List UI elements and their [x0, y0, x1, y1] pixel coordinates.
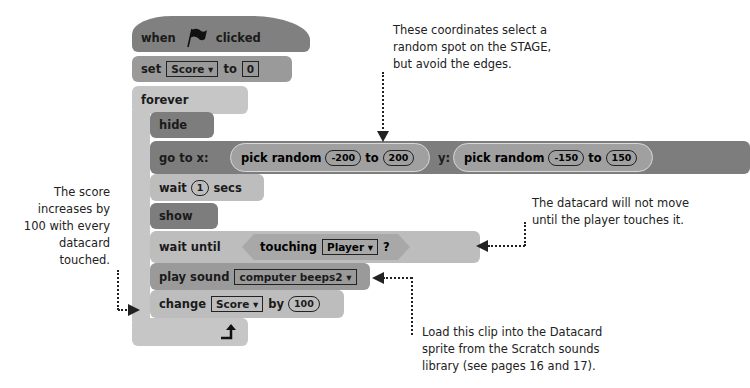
by-label: by: [268, 297, 284, 311]
annotation-datacard: The datacard will not move until the pla…: [532, 195, 689, 229]
to-label: to: [588, 151, 601, 165]
show-label: show: [159, 209, 193, 223]
wait-until-label: wait until: [159, 240, 221, 254]
value-input[interactable]: 0: [242, 61, 259, 77]
pick-random-x-reporter[interactable]: pick random -200 to 200: [230, 143, 430, 172]
loop-arrow-icon: [220, 323, 238, 341]
forever-bottom: [132, 318, 248, 346]
sound-dropdown[interactable]: computer beeps2 ▾: [234, 269, 356, 285]
y-label-text: y:: [438, 151, 450, 165]
pick-random-y-reporter[interactable]: pick random -150 to 150: [453, 143, 653, 172]
set-variable-block[interactable]: set Score ▾ to 0: [132, 56, 292, 82]
touching-target-dropdown[interactable]: Player ▾: [322, 239, 378, 255]
clicked-label: clicked: [216, 31, 261, 45]
wait-seconds-input[interactable]: 1: [191, 180, 210, 196]
show-block[interactable]: show: [150, 203, 218, 229]
touching-sensing-block[interactable]: touching Player ▾ ?: [242, 234, 410, 260]
random-from-input[interactable]: -150: [548, 150, 584, 166]
coords-leader-line: [382, 72, 384, 136]
datacard-leader-line-h: [488, 245, 525, 247]
score-leader-line-v: [117, 270, 119, 310]
random-to-input[interactable]: 150: [606, 150, 638, 166]
change-variable-block[interactable]: change Score ▾ by 100: [150, 290, 344, 318]
change-value-input[interactable]: 100: [288, 296, 320, 312]
variable-dropdown[interactable]: Score ▾: [211, 296, 263, 312]
annotation-line: until the player touches it.: [532, 212, 689, 229]
pick-random-label: pick random: [241, 151, 321, 165]
hide-block[interactable]: hide: [150, 112, 214, 138]
hat-label: when clicked: [132, 24, 261, 52]
sound-leader-line-v: [411, 277, 413, 335]
green-flag-icon: [184, 27, 208, 49]
annotation-line: touched.: [20, 252, 110, 269]
hide-label: hide: [159, 118, 187, 132]
play-sound-label: play sound: [159, 270, 229, 284]
sound-leader-line-h: [383, 277, 412, 279]
pick-random-label: pick random: [464, 151, 544, 165]
datacard-leader-line-v: [524, 222, 526, 246]
random-to-input[interactable]: 200: [383, 150, 415, 166]
annotation-sound: Load this clip into the Datacard sprite …: [422, 324, 602, 375]
secs-label: secs: [213, 181, 241, 195]
random-from-input[interactable]: -200: [325, 150, 361, 166]
go-to-label: go to x:: [159, 151, 209, 165]
arrow-down-icon: [377, 131, 389, 142]
y-label: y:: [432, 141, 450, 174]
forever-label: forever: [141, 93, 188, 107]
annotation-coordinates: These coordinates select a random spot o…: [393, 22, 551, 73]
arrow-left-icon: [476, 240, 488, 252]
annotation-line: random spot on the STAGE,: [393, 39, 551, 56]
arrow-right-icon: [128, 304, 140, 316]
annotation-line: datacard: [20, 235, 110, 252]
annotation-line: The datacard will not move: [532, 195, 689, 212]
variable-dropdown[interactable]: Score ▾: [166, 61, 218, 77]
wait-label: wait: [159, 181, 187, 195]
play-sound-block[interactable]: play sound computer beeps2 ▾: [150, 263, 370, 290]
annotation-line: but avoid the edges.: [393, 56, 551, 73]
question-mark: ?: [383, 240, 390, 254]
annotation-line: increases by: [20, 201, 110, 218]
set-label: set: [141, 62, 161, 76]
annotation-line: Load this clip into the Datacard: [422, 324, 602, 341]
annotation-line: 100 with every: [20, 218, 110, 235]
change-label: change: [159, 297, 206, 311]
touching-label: touching: [260, 240, 317, 254]
annotation-score: The score increases by 100 with every da…: [20, 184, 110, 269]
arrow-left-icon: [372, 272, 384, 284]
to-label: to: [223, 62, 236, 76]
annotation-line: library (see pages 16 and 17).: [422, 358, 602, 375]
to-label: to: [365, 151, 378, 165]
wait-secs-block[interactable]: wait 1 secs: [150, 174, 264, 201]
annotation-line: These coordinates select a: [393, 22, 551, 39]
annotation-line: The score: [20, 184, 110, 201]
forever-arm: [132, 110, 150, 322]
annotation-line: sprite from the Scratch sounds: [422, 341, 602, 358]
when-label: when: [141, 31, 176, 45]
